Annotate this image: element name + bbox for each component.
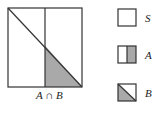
- intersection-label: A ∩ B: [35, 89, 63, 101]
- legend-a-shaded-half: [127, 46, 136, 63]
- legend-a-label: A: [144, 49, 152, 61]
- legend-s-square: [118, 9, 136, 26]
- legend-a: A: [118, 46, 152, 63]
- legend-b: B: [118, 84, 152, 101]
- legend-s-label: S: [145, 12, 151, 24]
- main-square-figure: A ∩ B: [8, 8, 82, 101]
- venn-square-diagram: A ∩ B S A B: [0, 0, 156, 113]
- legend-s: S: [118, 9, 151, 26]
- legend-b-label: B: [145, 87, 152, 99]
